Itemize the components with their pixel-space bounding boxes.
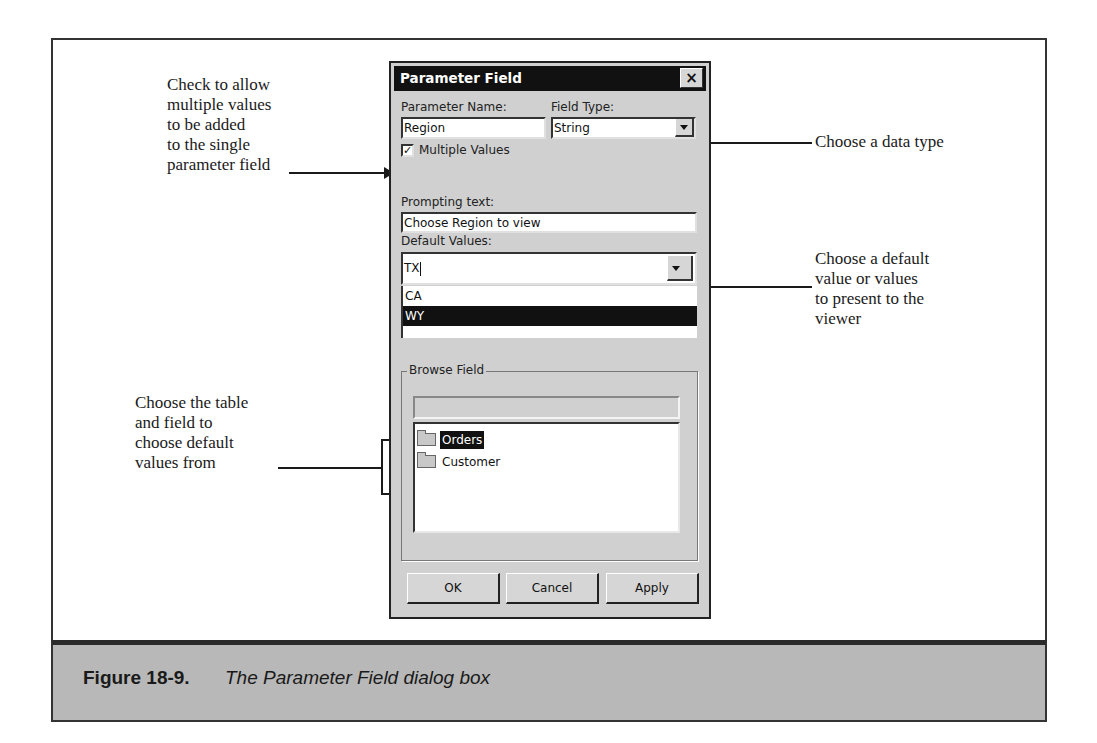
callout-line: values from [135,453,248,473]
callout-line: multiple values [167,95,271,115]
tree-item-label: Orders [440,431,484,449]
chevron-down-icon[interactable] [675,119,694,137]
tree-item-label: Customer [440,453,502,471]
folder-icon [417,455,436,468]
cancel-button[interactable]: Cancel [506,573,599,604]
callout-line: choose default [135,433,248,453]
dialog-title: Parameter Field [400,70,522,86]
browse-field-input [413,396,680,419]
chevron-down-icon[interactable] [667,256,693,281]
prompting-text-input[interactable]: Choose Region to view [401,212,697,233]
multiple-values-label[interactable]: Multiple Values [419,143,510,157]
text-cursor [420,262,421,276]
ok-button[interactable]: OK [407,573,500,604]
parameter-field-dialog: Parameter Field × Parameter Name: Field … [389,61,711,619]
callout-line: Choose a data type [815,132,944,152]
callout-line: to present to the [815,289,929,309]
callout-leader-line [704,142,812,144]
field-type-value: String [554,121,590,135]
default-values-input-value: TX [404,261,420,275]
browse-field-tree[interactable]: Orders Customer [413,422,680,533]
tree-item-orders[interactable]: Orders [417,431,484,449]
callout-leader-line [704,286,812,288]
parameter-name-input[interactable]: Region [401,117,546,139]
figure-caption: The Parameter Field dialog box [225,667,490,689]
parameter-name-value: Region [404,121,445,135]
field-type-label: Field Type: [551,100,614,114]
callout-line: parameter field [167,155,271,175]
parameter-name-label: Parameter Name: [401,100,507,114]
callout-default-value: Choose a default value or values to pres… [815,249,929,329]
figure-number: Figure 18-9. [83,667,190,689]
prompting-text-value: Choose Region to view [404,216,541,230]
callout-bracket [381,439,383,495]
callout-line: Choose the table [135,393,248,413]
callout-line: and field to [135,413,248,433]
callout-line: to be added [167,115,271,135]
apply-button[interactable]: Apply [606,573,699,604]
prompting-text-label: Prompting text: [401,195,494,209]
multiple-values-checkbox[interactable]: ✓ [401,144,414,157]
field-type-select[interactable]: String [551,117,696,139]
callout-line: Choose a default [815,249,929,269]
callout-line: Check to allow [167,75,271,95]
callout-leader-line [289,172,384,174]
callout-data-type: Choose a data type [815,132,944,152]
browse-field-title: Browse Field [407,363,486,377]
close-button[interactable]: × [680,68,703,88]
tree-item-customer[interactable]: Customer [417,453,502,471]
callout-line: value or values [815,269,929,289]
browse-field-group: Browse Field Orders Customer [401,371,698,561]
default-values-label: Default Values: [401,234,492,248]
check-icon: ✓ [403,144,412,157]
figure-caption-bar: Figure 18-9. The Parameter Field dialog … [51,640,1047,722]
default-values-combobox[interactable]: TX [401,252,697,285]
callout-line: viewer [815,309,929,329]
callout-leader-line [278,467,382,469]
list-item-ca[interactable]: CA [403,286,697,306]
dialog-titlebar[interactable]: Parameter Field × [394,66,706,91]
default-values-list[interactable]: CA WY [401,286,697,338]
close-icon: × [685,69,698,87]
callout-line: to the single [167,135,271,155]
list-item-wy[interactable]: WY [403,306,697,326]
folder-icon [417,433,436,446]
callout-multiple-values: Check to allow multiple values to be add… [167,75,271,175]
callout-browse-field: Choose the table and field to choose def… [135,393,248,473]
